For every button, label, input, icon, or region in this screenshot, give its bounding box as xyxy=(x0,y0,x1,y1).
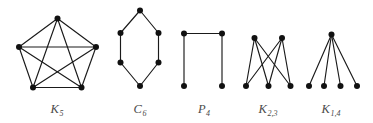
graph-label-base: K xyxy=(258,102,268,116)
graph-label-subscript: 4 xyxy=(206,109,210,118)
graph-vertex xyxy=(321,83,327,89)
graph-vertex xyxy=(137,83,143,89)
graph-label-subscript: 1,4 xyxy=(330,109,340,118)
graph-vertex xyxy=(118,30,124,36)
graph-vertex xyxy=(156,60,162,66)
graph-vertex xyxy=(306,83,312,89)
graph-vertex xyxy=(354,83,360,89)
graph-vertex xyxy=(156,30,162,36)
graph-vertex xyxy=(288,83,294,89)
graph-vertex xyxy=(243,83,249,89)
graph-vertex xyxy=(329,32,335,38)
graph-vertex xyxy=(118,60,124,66)
graph-vertex xyxy=(16,44,22,50)
graph-label-base: C xyxy=(134,102,143,116)
graph-label-base: K xyxy=(50,102,60,116)
graph-label-subscript: 5 xyxy=(59,109,63,118)
graph-label-base: P xyxy=(197,102,206,116)
graph-vertex xyxy=(266,83,272,89)
graph-figure: K5C6P4K2,3K1,4 xyxy=(0,0,373,123)
graph-vertex xyxy=(137,8,143,14)
graph-vertex xyxy=(79,85,85,91)
graph-vertex xyxy=(219,31,225,37)
graph-vertex xyxy=(55,16,61,22)
graph-vertex xyxy=(181,31,187,37)
graph-vertex xyxy=(279,35,285,41)
graph-vertex xyxy=(252,35,258,41)
graph-vertex xyxy=(30,85,36,91)
graph-canvas: K5C6P4K2,3K1,4 xyxy=(0,0,373,123)
graph-vertex xyxy=(219,83,225,89)
graph-label-base: K xyxy=(321,102,331,116)
graph-label-subscript: 6 xyxy=(142,109,146,118)
graph-vertex xyxy=(338,83,344,89)
graph-vertex xyxy=(181,83,187,89)
graph-vertex xyxy=(93,44,99,50)
graph-label-subscript: 2,3 xyxy=(267,109,277,118)
